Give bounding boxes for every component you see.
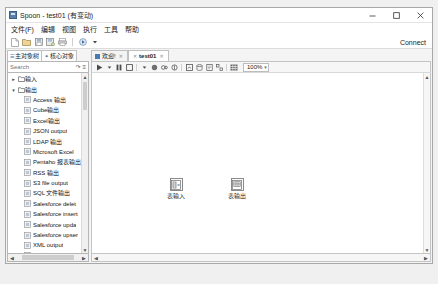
sidebar-vertical-scrollbar[interactable]: ▲ ▼ [81, 73, 88, 253]
search-row[interactable]: ↷ ≡ [7, 61, 89, 73]
chevron-down-icon[interactable]: ▾ [10, 86, 17, 94]
object-tree[interactable]: ▸输入▾输出Access 输出Cube输出Excel输出JSON outputL… [8, 73, 81, 253]
menu-view[interactable]: 视图 [62, 25, 76, 34]
save-as-icon[interactable] [46, 38, 55, 47]
canvas-vertical-scrollbar[interactable]: ▲ ▼ [423, 73, 430, 253]
folder-icon [17, 76, 25, 82]
tree-leaf-row[interactable]: SQL 文件输出 [8, 188, 81, 198]
scroll-down-icon[interactable]: ▼ [82, 246, 88, 253]
tree-item-label: 输入 [25, 75, 37, 83]
sql-icon[interactable] [195, 63, 203, 71]
minimize-button[interactable] [360, 8, 384, 22]
pause-icon[interactable] [115, 63, 123, 71]
stop-icon[interactable] [125, 63, 133, 71]
sidebar-horizontal-scrollbar[interactable]: ◀ ▶ [7, 254, 89, 262]
tree-leaf-row[interactable]: Salesforce delet [8, 199, 81, 209]
tree-item-label: JSON output [33, 127, 67, 135]
scroll-left-icon[interactable]: ◀ [92, 255, 100, 261]
replay-icon[interactable] [160, 63, 168, 71]
tree-leaf-row[interactable]: XML output [8, 240, 81, 250]
canvas-step-node[interactable]: 表输入 [159, 178, 193, 200]
tree-leaf-row[interactable]: RSS 输出 [8, 168, 81, 178]
canvas-panel: 欢迎! ✕ ✕ test01 ✕ [91, 50, 431, 262]
chevron-down-icon[interactable]: ▾ [264, 64, 267, 71]
new-file-icon[interactable] [10, 38, 19, 47]
tree-leaf-row[interactable]: Salesforce upser [8, 230, 81, 240]
tree-leaf-row[interactable]: Access 输出 [8, 95, 81, 105]
scroll-up-icon[interactable]: ▲ [424, 73, 430, 80]
verify-icon[interactable] [170, 63, 178, 71]
scroll-track[interactable] [424, 80, 430, 246]
menu-help[interactable]: 帮助 [125, 25, 139, 34]
grid-icon[interactable] [230, 63, 238, 71]
collapse-all-icon[interactable]: ≡ [82, 64, 86, 70]
menu-edit[interactable]: 编辑 [41, 25, 55, 34]
scroll-thumb[interactable] [83, 82, 87, 110]
step-icon [23, 128, 31, 135]
transformation-canvas[interactable]: 表输入表输出 ▲ ▼ [91, 73, 431, 254]
tree-leaf-row[interactable]: 删除 [8, 251, 81, 253]
application-window: Spoon - test01 (有变动) 文件(F) 编辑 视图 执行 工具 帮… [0, 0, 438, 284]
table-input-icon[interactable] [170, 178, 183, 191]
step-icon [23, 221, 31, 228]
tree-leaf-row[interactable]: Pentaho 报表输出 [8, 157, 81, 167]
canvas-hscroll-track[interactable] [100, 254, 422, 261]
scroll-down-icon[interactable]: ▼ [424, 246, 430, 253]
search-input[interactable] [10, 63, 56, 71]
tree-leaf-row[interactable]: Excel输出 [8, 116, 81, 126]
menu-file[interactable]: 文件(F) [11, 25, 34, 34]
menu-tools[interactable]: 工具 [104, 25, 118, 34]
step-icon [23, 180, 31, 187]
open-file-icon[interactable] [22, 38, 31, 47]
tree-item-label: Excel输出 [33, 117, 60, 125]
title-bar: Spoon - test01 (有变动) [6, 8, 432, 23]
scroll-left-icon[interactable]: ◀ [8, 255, 16, 261]
tree-folder-row[interactable]: ▸输入 [8, 74, 81, 84]
sidebar-tab-main-tree[interactable]: ☰ 主对象树 [7, 50, 41, 61]
tree-folder-row[interactable]: ▾输出 [8, 84, 81, 94]
hscroll-track[interactable] [16, 254, 80, 261]
tree-item-label: Salesforce upda [33, 221, 76, 229]
step-icon [23, 159, 31, 166]
run-transformation-icon[interactable] [95, 63, 103, 71]
tree-leaf-row[interactable]: S3 file output [8, 178, 81, 188]
maximize-button[interactable] [384, 8, 408, 22]
dropdown-icon[interactable] [90, 38, 99, 47]
tree-leaf-row[interactable]: LDAP 输出 [8, 136, 81, 146]
preview-icon[interactable] [140, 63, 148, 71]
close-button[interactable] [408, 8, 432, 22]
canvas-step-node[interactable]: 表输出 [220, 178, 254, 200]
expand-all-icon[interactable]: ↷ [75, 64, 80, 70]
tree-leaf-row[interactable]: Cube输出 [8, 105, 81, 115]
connect-link[interactable]: Connect [400, 38, 426, 47]
canvas-horizontal-scrollbar[interactable]: ◀ ▶ [91, 254, 431, 262]
tab-test01[interactable]: ✕ test01 ✕ [128, 50, 169, 61]
run-options-icon[interactable] [105, 63, 113, 71]
tree-item-label: Salesforce delet [33, 200, 76, 208]
canvas-area[interactable]: 表输入表输出 [92, 73, 423, 253]
scroll-right-icon[interactable]: ▶ [80, 255, 88, 261]
tab-welcome[interactable]: 欢迎! ✕ [91, 50, 128, 61]
save-icon[interactable] [34, 38, 43, 47]
tab-close-icon[interactable]: ✕ [159, 52, 163, 60]
analyze-icon[interactable] [185, 63, 193, 71]
show-log-icon[interactable] [205, 63, 213, 71]
scroll-up-icon[interactable]: ▲ [82, 73, 88, 80]
table-output-icon[interactable] [231, 178, 244, 191]
scroll-track[interactable] [82, 80, 88, 246]
tree-leaf-row[interactable]: Salesforce upda [8, 219, 81, 229]
menu-run[interactable]: 执行 [83, 25, 97, 34]
chevron-right-icon[interactable]: ▸ [10, 75, 17, 83]
hscroll-thumb[interactable] [22, 255, 74, 260]
arrange-icon[interactable] [215, 63, 223, 71]
run-icon[interactable] [78, 38, 87, 47]
scroll-right-icon[interactable]: ▶ [422, 255, 430, 261]
zoom-selector[interactable]: 100% ▾ [243, 63, 269, 72]
tree-leaf-row[interactable]: Salesforce insert [8, 209, 81, 219]
tree-leaf-row[interactable]: JSON output [8, 126, 81, 136]
print-icon[interactable] [58, 38, 67, 47]
debug-icon[interactable] [150, 63, 158, 71]
tab-close-icon[interactable]: ✕ [119, 52, 123, 60]
sidebar-tab-core-objects[interactable]: ✦ 核心对象 [41, 50, 76, 61]
tree-leaf-row[interactable]: Microsoft Excel [8, 147, 81, 157]
